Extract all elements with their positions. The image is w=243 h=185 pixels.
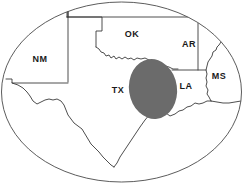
state-label-arkansas: AR <box>182 39 196 49</box>
state-label-oklahoma: OK <box>125 29 139 39</box>
state-label-new-mexico: NM <box>33 54 48 64</box>
region-map-figure: NM OK TX AR LA MS <box>0 0 243 185</box>
state-label-mississippi: MS <box>212 71 226 81</box>
state-label-texas: TX <box>112 85 124 95</box>
state-label-louisiana: LA <box>180 81 193 91</box>
map-svg: NM OK TX AR LA MS <box>0 0 243 185</box>
